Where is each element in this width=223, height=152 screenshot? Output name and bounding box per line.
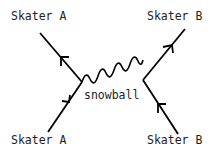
label-skater-a-bottom: Skater A <box>11 134 66 146</box>
skater-a-incoming-line <box>48 82 82 132</box>
skater-b-outgoing-line <box>143 29 185 80</box>
snowball-wavy-line <box>82 57 143 83</box>
label-skater-a-top: Skater A <box>11 10 66 22</box>
label-skater-b-top: Skater B <box>147 10 202 22</box>
diagram-canvas: Skater A Skater B Skater A Skater B snow… <box>0 0 223 152</box>
label-skater-b-bottom: Skater B <box>147 134 202 146</box>
skater-b-incoming-line <box>143 80 178 134</box>
label-snowball: snowball <box>84 89 139 101</box>
arrow-up-icon <box>62 95 70 102</box>
